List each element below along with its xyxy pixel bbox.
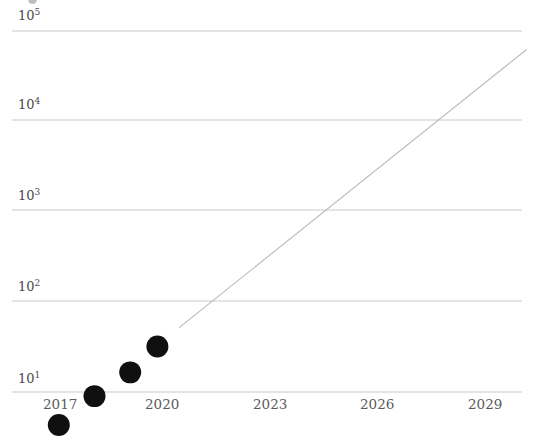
y-tick-exponent: 1	[35, 370, 41, 380]
y-tick-exponent: 2	[35, 278, 41, 288]
data-point	[84, 385, 106, 407]
y-tick-mantissa: 10	[18, 371, 35, 386]
y-tick-label-1e1: 101	[18, 372, 40, 385]
y-tick-label-1e4: 104	[18, 98, 40, 111]
x-tick-label-2029: 2029	[468, 398, 502, 412]
x-tick-label-2026: 2026	[360, 398, 394, 412]
y-tick-mantissa: 10	[18, 279, 35, 294]
chart-container: 105 104 103 102 101 2017 2020 2023 2026 …	[0, 0, 535, 448]
y-tick-exponent: 4	[35, 96, 41, 106]
x-tick-label-2017: 2017	[43, 398, 77, 412]
y-tick-exponent: 3	[35, 187, 41, 197]
y-tick-label-1e5: 105	[18, 9, 40, 22]
y-tick-mantissa: 10	[18, 188, 35, 203]
trendline-segment	[180, 50, 527, 328]
data-point	[48, 414, 70, 436]
y-tick-label-1e2: 102	[18, 280, 40, 293]
y-tick-exponent: 5	[35, 7, 41, 17]
y-tick-mantissa: 10	[18, 97, 35, 112]
x-tick-label-2023: 2023	[253, 398, 287, 412]
y-tick-mantissa: 10	[18, 8, 35, 23]
data-point	[119, 361, 141, 383]
plot-area	[0, 0, 535, 448]
trend-projection-line	[180, 50, 527, 328]
gridlines	[12, 31, 522, 392]
data-point	[146, 335, 168, 357]
x-tick-label-2020: 2020	[145, 398, 179, 412]
y-tick-label-1e3: 103	[18, 189, 40, 202]
scatter-markers	[48, 335, 169, 436]
